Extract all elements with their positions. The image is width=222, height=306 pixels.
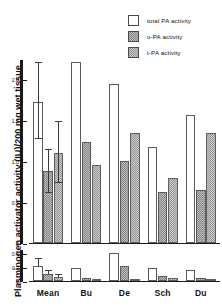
- bar-group-bu: [71, 59, 101, 243]
- error-cap-upper: [45, 149, 52, 150]
- legend-label-upa: u-PA activity: [147, 33, 183, 40]
- bar-du-total[interactable]: [186, 115, 196, 243]
- bar-sch-total[interactable]: [148, 147, 158, 243]
- lower-panel-tick: [23, 254, 27, 255]
- bar-mean-total[interactable]: [33, 266, 43, 281]
- bar-group-du: [186, 59, 216, 243]
- upper-panel-tick-label: 2.0: [4, 77, 19, 83]
- upper-panel-tick: [23, 80, 27, 81]
- bar-group-bu: [71, 249, 101, 281]
- bar-group-sch: [148, 59, 178, 243]
- bar-de-upa[interactable]: [120, 161, 130, 243]
- lower-panel-baseline: [29, 281, 220, 282]
- x-tick-label-de: De: [105, 288, 143, 298]
- bar-du-upa[interactable]: [196, 190, 206, 243]
- upper-panel-plot-area: [29, 60, 220, 244]
- upper-panel-tick-label: 1.5: [4, 118, 19, 124]
- bar-sch-upa[interactable]: [158, 192, 168, 243]
- lower-panel-tick: [23, 268, 27, 269]
- bar-sch-tpa[interactable]: [168, 278, 178, 281]
- bar-bu-tpa[interactable]: [92, 165, 102, 243]
- bar-du-tpa[interactable]: [206, 133, 216, 243]
- lower-panel-y-axis: [20, 250, 23, 282]
- error-cap-upper: [35, 62, 42, 63]
- error-bar-mean-total: [38, 259, 39, 266]
- bar-de-upa[interactable]: [120, 266, 130, 281]
- upper-panel-baseline: [29, 243, 220, 244]
- bar-group-mean: [33, 249, 63, 281]
- upper-panel-tick: [23, 203, 27, 204]
- lower-panel-tick-label: 0: [4, 279, 19, 285]
- error-bar-mean-tpa: [58, 275, 59, 277]
- bar-sch-total[interactable]: [148, 268, 158, 281]
- error-bar-mean-total: [38, 63, 39, 139]
- bar-mean-tpa[interactable]: [54, 277, 64, 281]
- x-tick-label-du: Du: [182, 288, 220, 298]
- bar-group-sch: [148, 249, 178, 281]
- bar-bu-total[interactable]: [71, 268, 81, 281]
- bar-de-total[interactable]: [109, 84, 119, 243]
- legend-swatch-tpa-icon: [128, 47, 139, 58]
- x-axis-tick-labels: MeanBuDeSchDu: [0, 288, 222, 302]
- error-cap-upper: [55, 274, 62, 275]
- error-cap-lower: [45, 192, 52, 193]
- bar-bu-upa[interactable]: [82, 142, 92, 243]
- bar-group-du: [186, 249, 216, 281]
- upper-panel-tick-label: 0.5: [4, 200, 19, 206]
- bar-sch-upa[interactable]: [158, 276, 168, 281]
- error-bar-mean-upa: [48, 150, 49, 193]
- bar-sch-tpa[interactable]: [168, 178, 178, 243]
- lower-panel-tick-label: 0.4: [4, 251, 19, 257]
- bar-bu-tpa[interactable]: [92, 279, 102, 281]
- upper-panel-tick: [23, 162, 27, 163]
- x-tick-label-bu: Bu: [67, 288, 105, 298]
- upper-panel-tick: [23, 244, 27, 245]
- legend-swatch-total-icon: [128, 15, 139, 26]
- upper-panel-y-axis: [20, 60, 23, 244]
- lower-panel-tick: [23, 282, 27, 283]
- error-cap-upper: [55, 121, 62, 122]
- bar-de-tpa[interactable]: [130, 279, 140, 281]
- lower-panel: 00.20.4: [20, 250, 220, 282]
- legend-label-total: total PA activity: [147, 17, 191, 24]
- lower-panel-tick-label: 0.2: [4, 265, 19, 271]
- error-cap-lower: [55, 182, 62, 183]
- bar-du-upa[interactable]: [196, 278, 206, 281]
- chart-figure: Plasminogen activator activity (IU)/200 …: [0, 0, 222, 306]
- bar-du-total[interactable]: [186, 270, 196, 281]
- x-tick-label-mean: Mean: [29, 288, 67, 298]
- upper-panel-tick-label: 0: [4, 241, 19, 247]
- bar-de-tpa[interactable]: [130, 133, 140, 243]
- legend-swatch-upa-icon: [128, 31, 139, 42]
- upper-panel-tick: [23, 121, 27, 122]
- bar-de-total[interactable]: [109, 253, 119, 281]
- error-cap-upper: [45, 270, 52, 271]
- bar-group-de: [109, 249, 139, 281]
- error-cap-upper: [35, 258, 42, 259]
- error-bar-mean-upa: [48, 271, 49, 274]
- bar-bu-total[interactable]: [71, 62, 81, 243]
- bar-bu-upa[interactable]: [82, 278, 92, 281]
- bar-du-tpa[interactable]: [206, 279, 216, 281]
- upper-panel-tick-label: 1.0: [4, 159, 19, 165]
- legend-label-tpa: t-PA activity: [147, 49, 181, 56]
- error-bar-mean-tpa: [58, 122, 59, 183]
- bar-group-de: [109, 59, 139, 243]
- bar-mean-upa[interactable]: [43, 274, 53, 281]
- lower-panel-plot-area: [29, 250, 220, 282]
- x-tick-label-sch: Sch: [144, 288, 182, 298]
- upper-panel: 00.51.01.52.0: [20, 60, 220, 244]
- error-cap-lower: [35, 138, 42, 139]
- bar-group-mean: [33, 59, 63, 243]
